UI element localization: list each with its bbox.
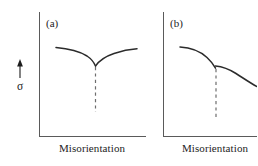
panel-b-xlabel: Misorientation [182, 142, 249, 154]
panel-b-curve-right [216, 66, 258, 87]
panel-b-curve-left [180, 47, 216, 68]
panel-a: (a) Misorientation [40, 12, 147, 154]
panel-b-tag: (b) [170, 17, 183, 30]
figure-svg: σ (a) Misorientation (b) Misorientatio [0, 0, 257, 166]
figure-container: σ (a) Misorientation (b) Misorientatio [0, 0, 257, 166]
panel-a-tag: (a) [46, 17, 59, 30]
y-axis-symbol-sigma: σ [17, 80, 24, 92]
panel-a-curve-right [96, 49, 138, 66]
panel-a-curve-left [56, 48, 96, 67]
up-arrow-icon [17, 59, 23, 67]
panel-a-xlabel: Misorientation [59, 142, 126, 154]
panel-b: (b) Misorientation [164, 12, 258, 154]
y-axis-label-group: σ [17, 59, 24, 92]
